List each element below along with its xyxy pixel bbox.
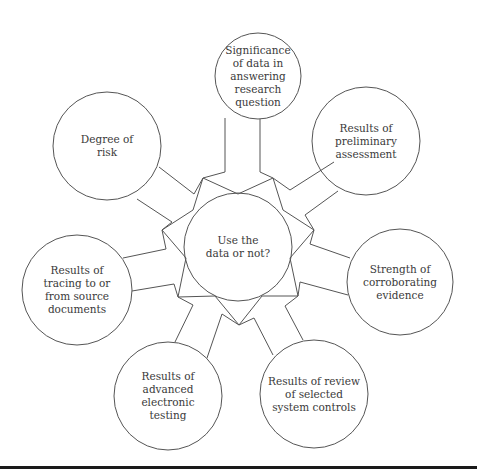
- connector-significance: [260, 119, 273, 178]
- connector-electronic-testing: [207, 314, 239, 358]
- bottom-divider-rule: [0, 466, 477, 469]
- center-node-label: Use the data or not?: [206, 234, 270, 260]
- node-label-corroborating: Strength of corroborating evidence: [363, 263, 437, 302]
- connector-corroborating: [310, 230, 350, 258]
- node-label-significance: Significance of data in answering resear…: [225, 44, 290, 109]
- connector-electronic-testing: [175, 297, 193, 342]
- node-label-risk: Degree of risk: [81, 133, 133, 159]
- connector-system-controls: [285, 296, 303, 340]
- connector-corroborating: [298, 282, 348, 296]
- connector-system-controls: [239, 318, 273, 355]
- connector-tracing: [132, 284, 178, 297]
- node-label-system-controls: Results of review of selected system con…: [268, 375, 360, 414]
- connector-preliminary: [305, 191, 338, 230]
- node-label-tracing: Results of tracing to or from source doc…: [44, 264, 111, 316]
- connector-risk: [159, 167, 203, 194]
- connector-significance: [203, 118, 225, 178]
- connector-tracing: [123, 230, 166, 258]
- node-label-electronic-testing: Results of advanced electronic testing: [141, 370, 194, 422]
- node-label-preliminary: Results of preliminary assessment: [335, 122, 397, 161]
- connector-risk: [137, 199, 172, 230]
